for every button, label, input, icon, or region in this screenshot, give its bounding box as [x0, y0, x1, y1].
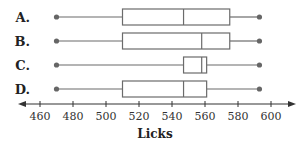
box-plot-chart: A.B.C.D. 460480500520540560580600 Licks — [0, 0, 307, 148]
min-dot-icon — [54, 38, 59, 43]
iqr-box — [123, 81, 207, 97]
tick-label: 540 — [162, 110, 183, 123]
box-row-d: D. — [15, 81, 262, 97]
iqr-box — [123, 9, 230, 25]
tick-label: 600 — [261, 110, 282, 123]
x-axis-title: Licks — [137, 127, 173, 141]
box-row-a: A. — [14, 9, 262, 25]
max-dot-icon — [257, 62, 262, 67]
box-row-c: C. — [15, 57, 262, 73]
tick-label: 520 — [129, 110, 150, 123]
tick-label: 480 — [63, 110, 84, 123]
max-dot-icon — [257, 14, 262, 19]
row-label: C. — [15, 58, 30, 73]
row-label: D. — [15, 82, 30, 97]
box-row-b: B. — [14, 33, 262, 49]
arrow-right-icon — [288, 101, 296, 107]
tick-label: 580 — [228, 110, 249, 123]
x-axis: 460480500520540560580600 — [18, 101, 296, 123]
min-dot-icon — [54, 14, 59, 19]
tick-label: 560 — [195, 110, 216, 123]
iqr-box — [184, 57, 207, 73]
box-plot-rows: A.B.C.D. — [14, 9, 262, 97]
row-label: B. — [14, 34, 30, 49]
min-dot-icon — [54, 62, 59, 67]
max-dot-icon — [257, 86, 262, 91]
max-dot-icon — [257, 38, 262, 43]
tick-label: 500 — [96, 110, 117, 123]
row-label: A. — [14, 10, 30, 25]
arrow-left-icon — [18, 101, 26, 107]
iqr-box — [123, 33, 230, 49]
min-dot-icon — [54, 86, 59, 91]
tick-label: 460 — [30, 110, 51, 123]
